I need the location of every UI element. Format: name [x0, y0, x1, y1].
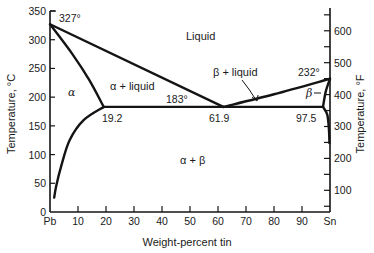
alpha-solubility-label: 19.2: [102, 112, 123, 124]
solidus-beta-curve: [323, 79, 330, 107]
phase-boundaries: [50, 24, 330, 197]
eutectic-temp-label: 183°: [166, 93, 188, 105]
y-axis-left-title: Temperature, °C: [5, 74, 17, 154]
y-axis-right-title: Temperature, °F: [354, 74, 366, 153]
phase-diagram-svg: 050100150200250300350Pb10203040506070809…: [0, 0, 374, 253]
y-tick-left-label: 350: [28, 5, 46, 17]
x-tick-label: 30: [128, 215, 140, 227]
x-tick-label: 90: [296, 215, 308, 227]
pb-melting-point-label: 327°: [59, 12, 81, 24]
region-alpha-liquid-label: α + liquid: [110, 80, 155, 92]
solvus-alpha-curve: [54, 107, 104, 198]
beta-solubility-label: 97.5: [296, 112, 317, 124]
x-tick-label: 50: [184, 215, 196, 227]
x-tick-label: 80: [268, 215, 280, 227]
eutectic-composition-label: 61.9: [209, 112, 230, 124]
region-beta-liquid-label: β + liquid: [213, 66, 258, 78]
x-tick-label: Sn: [324, 215, 337, 227]
y-tick-left-label: 200: [28, 91, 46, 103]
region-beta-label: β: [305, 87, 312, 100]
y-tick-left-label: 150: [28, 120, 46, 132]
y-tick-right-label: 500: [334, 57, 352, 69]
x-axis-title: Weight-percent tin: [142, 236, 231, 248]
region-alpha-beta-label: α + β: [180, 154, 205, 166]
region-liquid-label: Liquid: [186, 30, 215, 42]
region-alpha-label: α: [68, 86, 76, 99]
x-tick-label: 10: [72, 215, 84, 227]
phase-diagram: 050100150200250300350Pb10203040506070809…: [0, 0, 374, 253]
y-tick-right-label: 100: [334, 184, 352, 196]
sn-melting-point-label: 232°: [298, 66, 320, 78]
x-tick-label: 20: [100, 215, 112, 227]
x-tick-label: 70: [240, 215, 252, 227]
x-tick-label: 40: [156, 215, 168, 227]
solvus-beta-curve: [323, 107, 329, 143]
beta-liquid-leader-line: [242, 80, 256, 100]
y-tick-left-label: 300: [28, 34, 46, 46]
y-tick-left-label: 250: [28, 62, 46, 74]
y-tick-right-label: 400: [334, 89, 352, 101]
y-tick-left-label: 100: [28, 149, 46, 161]
liquidus-right-curve: [223, 79, 330, 107]
y-tick-right-label: 200: [334, 152, 352, 164]
x-tick-label: Pb: [44, 215, 57, 227]
x-tick-label: 60: [212, 215, 224, 227]
y-tick-right-label: 600: [334, 25, 352, 37]
y-tick-right-label: 300: [334, 120, 352, 132]
y-tick-left-label: 50: [34, 177, 46, 189]
